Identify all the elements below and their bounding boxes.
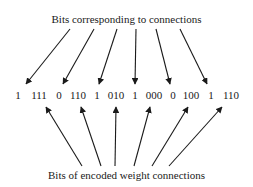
arrow-up-icon	[46, 107, 82, 166]
arrow-up-icon	[134, 107, 150, 166]
bit-group: 1	[15, 89, 21, 101]
bit-group: 1	[94, 89, 100, 101]
bottom-arrows-group	[46, 107, 222, 166]
bit-string-row: 111101101010100001001110	[0, 89, 253, 103]
bit-group: 0	[56, 89, 62, 101]
arrow-down-icon	[26, 29, 70, 84]
arrow-down-icon	[99, 29, 117, 84]
top-label: Bits corresponding to connections	[0, 13, 253, 25]
arrow-down-icon	[156, 29, 170, 84]
bit-group: 110	[70, 89, 86, 101]
bit-group: 110	[223, 89, 239, 101]
bit-group: 0	[170, 89, 176, 101]
arrow-down-icon	[63, 29, 94, 84]
diagram-canvas: Bits corresponding to connections 111101…	[0, 0, 253, 187]
bottom-label: Bits of encoded weight connections	[0, 169, 253, 181]
bit-group: 111	[31, 89, 47, 101]
arrow-down-icon	[180, 29, 207, 84]
bit-group: 000	[146, 89, 163, 101]
arrow-up-icon	[152, 107, 188, 166]
bit-group: 1	[208, 89, 214, 101]
arrow-up-icon	[115, 107, 116, 166]
arrow-up-icon	[81, 107, 101, 166]
bit-group: 100	[183, 89, 200, 101]
arrow-down-icon	[135, 29, 136, 84]
bit-group: 010	[108, 89, 125, 101]
arrow-up-icon	[169, 107, 222, 166]
top-arrows-group	[26, 29, 207, 84]
bit-group: 1	[132, 89, 138, 101]
